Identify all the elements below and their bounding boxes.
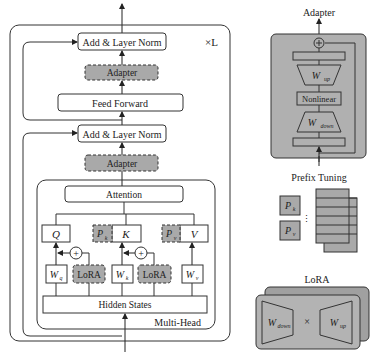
feed-forward-label: Feed Forward xyxy=(92,98,148,109)
lora-panel-title: LoRA xyxy=(305,274,331,285)
multi-head-label: Multi-Head xyxy=(154,317,201,328)
lora-q-label: LoRA xyxy=(77,270,101,280)
w-down-trapezoid xyxy=(297,112,341,132)
add-norm-bottom-label: Add & Layer Norm xyxy=(82,129,161,140)
svg-text:P: P xyxy=(284,225,291,236)
adapter-layer-top xyxy=(293,52,345,60)
svg-text:P: P xyxy=(165,228,172,239)
svg-text:up: up xyxy=(324,76,330,82)
svg-text:+: + xyxy=(73,248,79,259)
lora-panel: LoRA W down × W up xyxy=(256,274,369,349)
attention-label: Attention xyxy=(106,190,142,200)
svg-text:v: v xyxy=(293,231,296,237)
adapter-bottom-label: Adapter xyxy=(107,159,138,169)
add-norm-top-label: Add & Layer Norm xyxy=(82,37,161,48)
adapter-layer-bottom xyxy=(293,138,345,146)
lora-k-label: LoRA xyxy=(143,270,167,280)
peft-diagram: ×L Add & Layer Norm Adapter Feed Forward… xyxy=(0,0,376,353)
svg-text:v: v xyxy=(196,275,199,281)
adapter-panel-title: Adapter xyxy=(303,7,336,18)
repeat-label: ×L xyxy=(205,36,218,48)
hidden-states-label: Hidden States xyxy=(98,300,151,310)
svg-text:P: P xyxy=(96,228,103,239)
multi-head-block: Multi-Head Attention Q K P k V P v xyxy=(37,180,215,329)
ellipsis: ⋮ xyxy=(302,214,311,224)
adapter-top-label: Adapter xyxy=(107,68,138,78)
svg-text:k: k xyxy=(126,275,129,281)
query-label: Q xyxy=(52,228,60,240)
svg-text:v: v xyxy=(174,235,177,241)
key-label: K xyxy=(121,228,130,240)
svg-text:down: down xyxy=(277,323,290,329)
svg-text:up: up xyxy=(340,323,346,329)
svg-text:P: P xyxy=(284,200,291,211)
adapter-panel: Adapter W up Nonlinear W down xyxy=(271,7,366,166)
transformer-block: ×L Add & Layer Norm Adapter Feed Forward… xyxy=(10,4,230,352)
svg-text:down: down xyxy=(320,123,333,129)
prefix-panel-title: Prefix Tuning xyxy=(291,172,346,183)
multiply-sign: × xyxy=(304,316,310,327)
prefix-tuning-panel: Prefix Tuning P k P v ⋮ xyxy=(280,172,357,252)
svg-text:k: k xyxy=(105,235,108,241)
svg-text:q: q xyxy=(60,275,63,281)
svg-text:k: k xyxy=(293,206,296,212)
nonlinear-label: Nonlinear xyxy=(302,94,336,104)
svg-text:+: + xyxy=(138,248,144,259)
